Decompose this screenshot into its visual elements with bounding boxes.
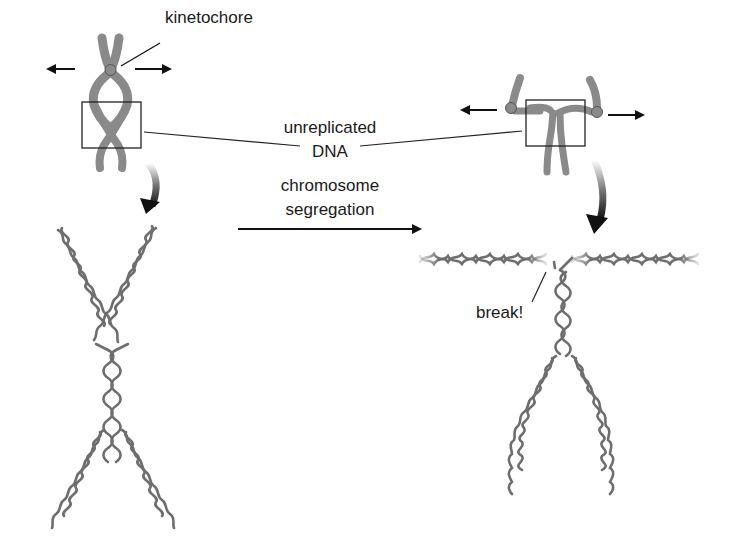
- kinetochore-leader-line: [121, 43, 160, 66]
- segregation-label-line1: chromosome: [281, 176, 379, 196]
- kinetochore-right-a: [506, 103, 517, 114]
- unreplicated-leader-left: [144, 132, 300, 146]
- zoom-arrow-left: [140, 163, 160, 214]
- zoom-arrow-right: [586, 160, 608, 234]
- unreplicated-label-line2: DNA: [312, 142, 348, 162]
- unreplicated-label-line1: unreplicated: [284, 118, 377, 138]
- segregation-label-line2: segregation: [286, 200, 375, 220]
- right-dna-helix: [420, 254, 698, 494]
- break-leader-line: [532, 272, 546, 302]
- diagram-canvas: [0, 0, 737, 549]
- left-dna-helix: [52, 226, 174, 528]
- kinetochore-label: kinetochore: [165, 8, 253, 28]
- break-label: break!: [476, 303, 523, 323]
- unreplicated-leader-right: [360, 131, 522, 146]
- kinetochore-left: [105, 65, 116, 76]
- kinetochore-right-b: [592, 107, 603, 118]
- right-chromosome: [512, 78, 597, 172]
